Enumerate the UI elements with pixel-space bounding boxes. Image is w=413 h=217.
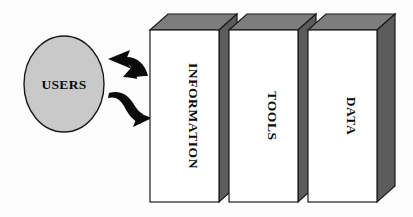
- block-information-label: INFORMATION: [186, 63, 201, 169]
- arrow-to-users: [108, 50, 148, 79]
- block-data[interactable]: DATA: [308, 14, 395, 202]
- users-label: USERS: [41, 77, 86, 92]
- block-information[interactable]: INFORMATION: [150, 14, 237, 202]
- diagram-svg: USERS INFORMATION TOOLS: [0, 0, 413, 217]
- block-data-label: DATA: [344, 97, 359, 136]
- users-node[interactable]: USERS: [24, 36, 104, 132]
- block-tools-front-face: [229, 30, 298, 202]
- block-information-front-face: [150, 30, 219, 202]
- block-data-side-face: [377, 14, 395, 202]
- block-tools[interactable]: TOOLS: [229, 14, 316, 202]
- block-data-front-face: [308, 30, 377, 202]
- block-tools-label: TOOLS: [265, 91, 280, 140]
- diagram-canvas: USERS INFORMATION TOOLS: [0, 0, 413, 217]
- arrow-to-boxes: [108, 92, 152, 127]
